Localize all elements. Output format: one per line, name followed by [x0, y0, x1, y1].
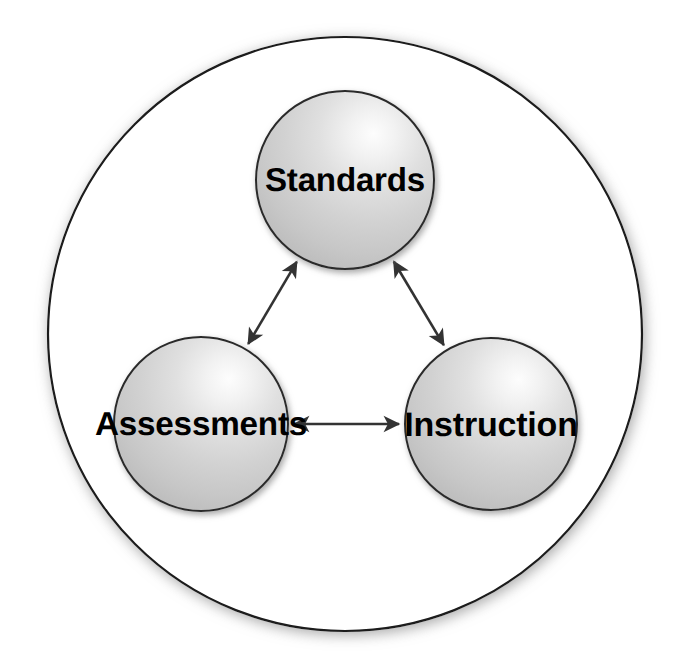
node-circle-assessments[interactable] [114, 337, 288, 511]
node-circle-instruction[interactable] [405, 338, 577, 510]
diagram-svg [0, 0, 688, 669]
diagram-canvas: Standards Assessments Instruction [0, 0, 688, 669]
node-circle-standards[interactable] [256, 91, 434, 269]
